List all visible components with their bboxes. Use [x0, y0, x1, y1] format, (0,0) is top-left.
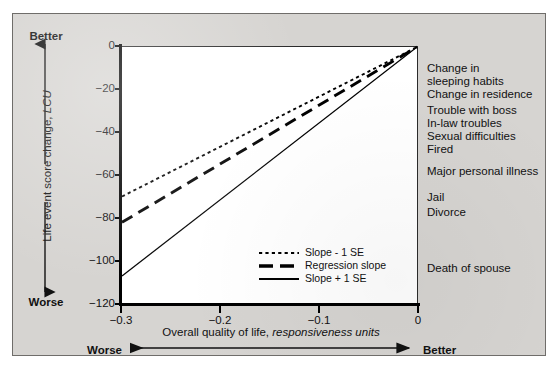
- event-label-divorce: Divorce: [427, 206, 466, 218]
- y-axis-better-label: Better: [17, 30, 75, 42]
- x-tick-mark: [120, 306, 122, 313]
- y-tick-label: −80: [71, 212, 115, 224]
- x-axis-better-label: Better: [423, 344, 456, 356]
- x-axis-title: Overall quality of life, responsiveness …: [121, 326, 421, 338]
- event-label-change-in-residence: Change in residence: [427, 88, 533, 100]
- y-tick-mark: [115, 174, 122, 176]
- event-label-in-law-troubles: In-law troubles: [427, 117, 502, 129]
- y-axis-title: Life event score change, LCU: [41, 56, 53, 276]
- y-tick-label: −20: [71, 83, 115, 95]
- event-label-trouble-with-boss: Trouble with boss: [427, 104, 517, 116]
- y-axis-title-italic: LCU: [41, 90, 53, 113]
- y-axis-annotation-block: Better Worse Life event score change, LC…: [17, 24, 61, 324]
- x-tick-label: 0: [390, 315, 446, 327]
- y-tick-mark: [115, 217, 122, 219]
- legend-swatch-solid: [258, 273, 300, 285]
- y-tick-mark: [115, 303, 122, 305]
- legend-swatch-dotted: [258, 247, 300, 259]
- x-axis-line: [119, 303, 420, 306]
- legend-swatch-dashed: [258, 260, 300, 272]
- event-label-major-personal-illness: Major personal illness: [427, 165, 538, 177]
- x-tick-mark: [417, 306, 419, 313]
- event-label-jail: Jail: [427, 191, 444, 203]
- event-label-change-in: Change in: [427, 62, 479, 74]
- chart-panel: Better Worse Life event score change, LC…: [12, 13, 546, 356]
- y-tick-mark: [115, 131, 122, 133]
- legend-item-regression-slope: Regression slope: [258, 259, 403, 272]
- event-label-sleeping-habits: sleeping habits: [427, 75, 504, 87]
- x-axis-title-plain: Overall quality of life,: [162, 326, 269, 338]
- chart-legend: Slope - 1 SE Regression slope Slope + 1 …: [258, 246, 403, 285]
- x-tick-mark: [318, 306, 320, 313]
- y-tick-label: −100: [71, 255, 115, 267]
- event-label-death-of-spouse: Death of spouse: [427, 262, 511, 274]
- figure-root: Better Worse Life event score change, LC…: [0, 0, 560, 371]
- plot-top-edge: [121, 46, 418, 47]
- legend-item-slope-plus-1se: Slope + 1 SE: [258, 272, 403, 285]
- x-tick-label: −0.1: [291, 315, 347, 327]
- event-label-fired: Fired: [427, 143, 453, 155]
- x-tick-label: −0.2: [192, 315, 248, 327]
- y-tick-label: −40: [71, 126, 115, 138]
- y-tick-mark: [115, 260, 122, 262]
- x-axis-worse-label: Worse: [87, 344, 122, 356]
- y-tick-label: −120: [71, 298, 115, 310]
- x-tick-mark: [219, 306, 221, 313]
- y-axis-worse-label: Worse: [17, 296, 75, 308]
- plot-right-edge: [417, 46, 418, 304]
- y-tick-mark: [115, 45, 122, 47]
- legend-item-slope-minus-1se: Slope - 1 SE: [258, 246, 403, 259]
- y-axis-title-plain: Life event score change,: [41, 116, 53, 241]
- legend-label: Slope - 1 SE: [305, 247, 364, 258]
- x-tick-label: −0.3: [93, 315, 149, 327]
- x-axis-title-italic: responsiveness units: [272, 326, 379, 338]
- y-tick-label: −60: [71, 169, 115, 181]
- legend-label: Regression slope: [305, 260, 386, 271]
- event-label-sexual-difficulties: Sexual difficulties: [427, 130, 516, 142]
- legend-label: Slope + 1 SE: [305, 273, 367, 284]
- y-tick-label: 0: [71, 40, 115, 52]
- y-tick-mark: [115, 88, 122, 90]
